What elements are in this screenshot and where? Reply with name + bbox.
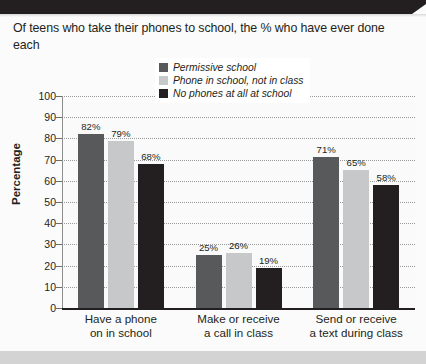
y-axis-tick-label: 20 <box>12 260 56 272</box>
bar-value-label: 58% <box>366 172 406 183</box>
y-axis-tick-label: 70 <box>12 154 56 166</box>
bar <box>373 185 399 308</box>
x-axis-category-line: Send or receive <box>297 312 415 326</box>
page-title: Of teens who take their phones to school… <box>13 20 413 54</box>
y-axis-tick-label: 60 <box>12 175 56 187</box>
x-axis-category-label: Have a phoneon in school <box>62 312 180 340</box>
y-axis-tick-label: 90 <box>12 111 56 123</box>
y-axis-tick-label: 100 <box>12 90 56 102</box>
bar-value-label: 19% <box>249 255 289 266</box>
bar-value-label: 71% <box>306 144 346 155</box>
top-banner-decoration <box>0 0 426 14</box>
x-axis-category-label: Send or receivea text during class <box>297 312 415 340</box>
bar <box>78 134 104 308</box>
y-axis-line <box>62 96 63 308</box>
banner-shadow <box>0 14 426 17</box>
legend-swatch-icon <box>159 89 168 98</box>
bar-value-label: 65% <box>336 157 376 168</box>
chart-legend: Permissive schoolPhone in school, not in… <box>155 58 310 103</box>
gridline <box>62 138 415 139</box>
bar <box>108 141 134 308</box>
x-axis-line <box>62 308 415 310</box>
bar <box>196 255 222 308</box>
x-axis-category-line: a text during class <box>297 326 415 340</box>
legend-label: Permissive school <box>173 62 256 73</box>
chart-page: Of teens who take their phones to school… <box>0 0 426 364</box>
x-axis-category-line: Have a phone <box>62 312 180 326</box>
bar-value-label: 26% <box>219 240 259 251</box>
legend-item[interactable]: Phone in school, not in class <box>159 74 304 87</box>
plot-area: 82%79%68%25%26%19%71%65%58% <box>62 96 415 308</box>
bar-chart: Percentage 1009080706050403020100 82%79%… <box>0 60 426 345</box>
y-axis-tick-label: 0 <box>12 302 56 314</box>
bar-value-label: 79% <box>101 128 141 139</box>
y-axis-tick-label: 30 <box>12 238 56 250</box>
bar-value-label: 68% <box>131 151 171 162</box>
gridline <box>62 117 415 118</box>
legend-label: Phone in school, not in class <box>173 75 304 86</box>
y-axis-tick-label: 10 <box>12 281 56 293</box>
x-axis-category-line: a call in class <box>180 326 298 340</box>
x-axis-category-line: on in school <box>62 326 180 340</box>
bar <box>343 170 369 308</box>
bar <box>313 157 339 308</box>
bar <box>256 268 282 308</box>
y-axis-tick-label: 50 <box>12 196 56 208</box>
legend-label: No phones at all at school <box>173 88 292 99</box>
legend-item[interactable]: Permissive school <box>159 61 304 74</box>
x-axis-category-label: Make or receivea call in class <box>180 312 298 340</box>
legend-swatch-icon <box>159 76 168 85</box>
x-axis-category-line: Make or receive <box>180 312 298 326</box>
legend-item[interactable]: No phones at all at school <box>159 87 304 100</box>
legend-swatch-icon <box>159 63 168 72</box>
footer-bar <box>0 351 426 364</box>
bar <box>138 164 164 308</box>
y-axis-tick-label: 40 <box>12 217 56 229</box>
y-axis-tick-label: 80 <box>12 132 56 144</box>
